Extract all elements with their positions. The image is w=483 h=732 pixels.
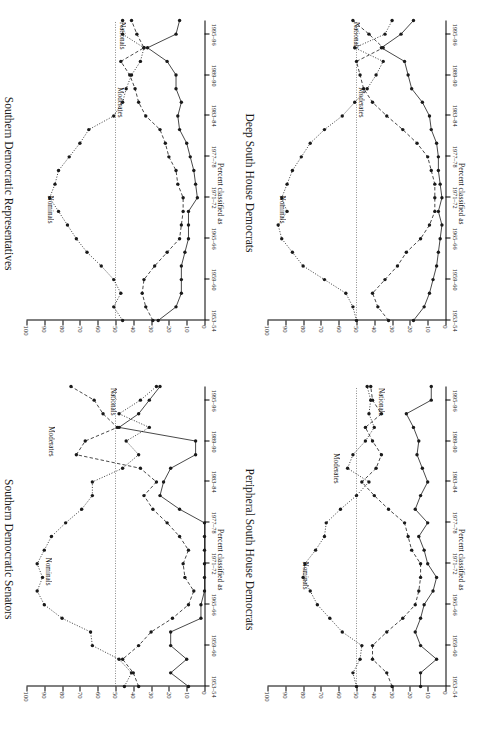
data-point (415, 452, 418, 455)
data-point (117, 412, 120, 415)
data-point (138, 466, 141, 469)
data-point (411, 318, 414, 321)
data-point (101, 412, 104, 415)
data-point (360, 643, 363, 646)
chart-panel-peripheral-south-house-democrats: Peripheral South House Democrats01020304… (241, 366, 482, 732)
data-point (418, 671, 421, 674)
data-point (351, 305, 354, 308)
data-point (186, 223, 189, 226)
chart-stage: Deep South House Democrats01020304050607… (241, 0, 482, 366)
data-point (365, 384, 368, 387)
data-point (165, 59, 168, 62)
plot-area (241, 366, 482, 732)
data-point (174, 73, 177, 76)
plot-area (241, 0, 482, 366)
data-point (120, 466, 123, 469)
data-point (149, 630, 152, 633)
series-line-nominals (49, 20, 143, 320)
data-point (202, 548, 205, 551)
data-point (152, 264, 155, 267)
series-label-nationals: Nationals (376, 388, 384, 416)
data-point (433, 196, 436, 199)
data-point (372, 425, 375, 428)
data-point (63, 521, 66, 524)
data-point (183, 575, 186, 578)
data-point (404, 412, 407, 415)
data-point (429, 384, 432, 387)
data-point (181, 209, 184, 212)
data-point (390, 18, 393, 21)
data-point (344, 291, 347, 294)
data-point (358, 73, 361, 76)
data-point (402, 521, 405, 524)
series-line-nationals (119, 386, 204, 686)
series-label-nationals: Nationals (108, 388, 116, 416)
series-line-nominals (303, 386, 374, 686)
data-point (374, 466, 377, 469)
data-point (353, 100, 356, 103)
series-label-moderates: Moderates (356, 87, 364, 117)
data-point (433, 209, 436, 212)
data-point (74, 236, 77, 239)
data-point (154, 384, 157, 387)
data-point (56, 168, 59, 171)
data-point (168, 643, 171, 646)
data-point (120, 657, 123, 660)
data-point (322, 277, 325, 280)
data-point (177, 18, 180, 21)
data-point (186, 548, 189, 551)
data-point (383, 277, 386, 280)
series-line-nationals (147, 20, 197, 320)
data-point (56, 209, 59, 212)
data-point (386, 507, 389, 510)
data-point (417, 589, 420, 592)
data-point (168, 671, 171, 674)
data-point (379, 452, 382, 455)
data-point (401, 616, 404, 619)
data-point (179, 277, 182, 280)
data-point (135, 32, 138, 35)
data-point (168, 466, 171, 469)
data-point (354, 684, 357, 687)
data-point (202, 534, 205, 537)
data-point (156, 318, 159, 321)
data-point (142, 493, 145, 496)
data-point (381, 59, 384, 62)
data-point (383, 32, 386, 35)
data-point (202, 589, 205, 592)
chart-stage: Southern Democratic Representatives01020… (0, 0, 241, 366)
data-point (90, 493, 93, 496)
data-point (92, 398, 95, 401)
data-point (138, 59, 141, 62)
data-point (354, 493, 357, 496)
series-label-nationals: Nationals (351, 22, 359, 50)
series-line-moderates (71, 386, 194, 686)
data-point (290, 250, 293, 253)
data-point (136, 643, 139, 646)
series-label-moderates: Moderates (115, 87, 123, 117)
data-point (145, 46, 148, 49)
data-point (363, 439, 366, 442)
data-point (299, 155, 302, 158)
data-point (186, 236, 189, 239)
series-line-nominals (278, 20, 392, 320)
data-point (290, 168, 293, 171)
data-point (87, 127, 90, 130)
data-point (427, 223, 430, 226)
data-point (340, 630, 343, 633)
series-label-nominals: Nominals (300, 561, 308, 589)
data-point (174, 86, 177, 89)
data-point (165, 250, 168, 253)
data-point (147, 425, 150, 428)
data-point (147, 398, 150, 401)
series-line-nationals (406, 386, 436, 686)
data-point (69, 384, 72, 387)
data-point (370, 100, 373, 103)
data-point (434, 264, 437, 267)
data-point (345, 466, 348, 469)
data-point (177, 534, 180, 537)
data-point (367, 480, 370, 483)
chart-stage: Peripheral South House Democrats01020304… (241, 366, 482, 732)
data-point (370, 291, 373, 294)
data-point (385, 630, 388, 633)
